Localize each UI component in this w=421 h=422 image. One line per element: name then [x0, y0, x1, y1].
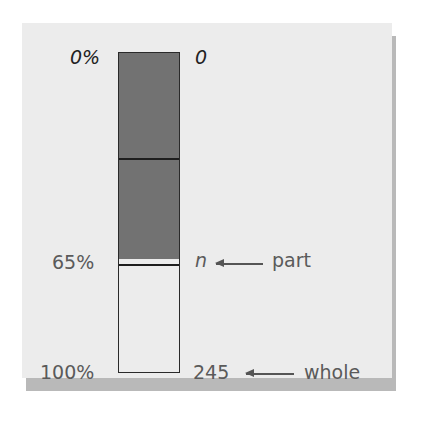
- label-part: part: [272, 251, 311, 270]
- label-245: 245: [193, 363, 229, 382]
- label-0-value: 0: [195, 48, 207, 67]
- label-whole: whole: [304, 363, 360, 382]
- label-0-percent: 0%: [70, 48, 100, 67]
- shaded-segment-upper: [119, 53, 179, 160]
- arrow-left-icon: [246, 373, 294, 375]
- percent-bar: [118, 52, 180, 373]
- shaded-segment-lower: [119, 160, 179, 259]
- part-divider-line: [119, 264, 179, 266]
- label-65-percent: 65%: [52, 253, 94, 272]
- diagram-card: [22, 23, 392, 378]
- label-100-percent: 100%: [40, 363, 94, 382]
- arrow-left-icon: [216, 263, 263, 265]
- label-n: n: [195, 251, 207, 270]
